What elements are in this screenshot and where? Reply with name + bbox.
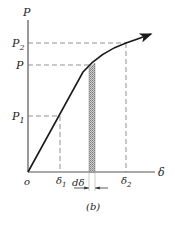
- p2-label: P2: [11, 37, 25, 52]
- p-label: P: [15, 59, 24, 72]
- d-delta-label: dδ: [72, 177, 84, 188]
- load-deflection-diagram: P P2 P P1 o δ1 δ2 δ dδ (b): [0, 0, 175, 228]
- hatched-strip: [89, 63, 95, 172]
- p1-label: P1: [11, 110, 25, 125]
- origin-label: o: [24, 176, 30, 187]
- figure-caption: (b): [86, 201, 100, 212]
- delta2-label: δ2: [121, 175, 132, 189]
- x-axis-label: δ: [158, 166, 165, 179]
- delta1-label: δ1: [56, 175, 67, 189]
- y-axis-label: P: [22, 6, 31, 19]
